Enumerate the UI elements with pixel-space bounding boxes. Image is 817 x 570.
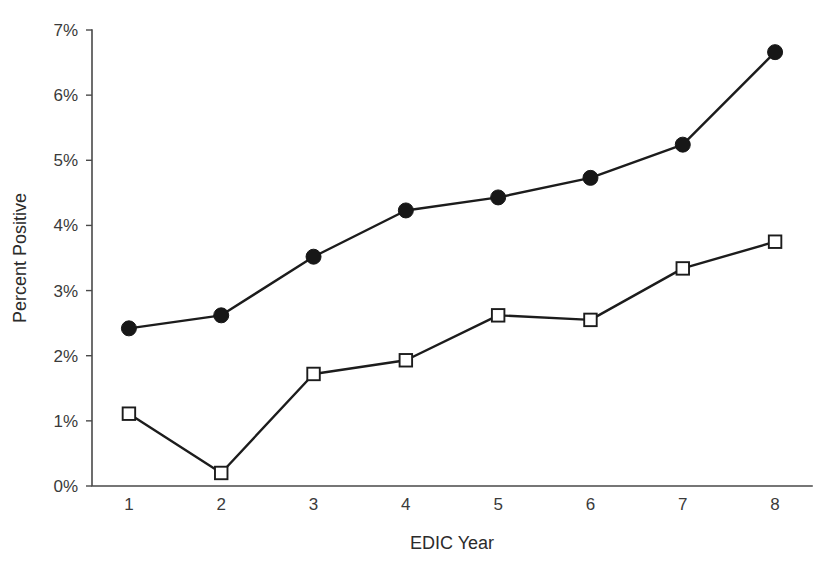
chart-background [0,0,817,570]
x-tick-label: 2 [216,495,225,514]
y-tick-label: 4% [53,216,78,235]
data-point-marker [121,321,136,336]
y-tick-label: 2% [53,347,78,366]
data-point-marker [492,309,505,322]
x-tick-label: 8 [770,495,779,514]
data-point-marker [215,467,228,480]
y-axis-title: Percent Positive [10,193,30,323]
data-point-marker [491,190,506,205]
x-tick-label: 7 [678,495,687,514]
data-point-marker [400,354,413,367]
line-chart-canvas: 0%1%2%3%4%5%6%7% 12345678 EDIC Year Perc… [0,0,817,570]
x-tick-label: 6 [586,495,595,514]
data-point-marker [583,170,598,185]
data-point-marker [769,235,782,248]
data-point-marker [307,368,320,381]
y-tick-label: 6% [53,86,78,105]
x-tick-label: 5 [493,495,502,514]
data-point-marker [768,45,783,60]
chart-figure: 0%1%2%3%4%5%6%7% 12345678 EDIC Year Perc… [0,0,817,570]
data-point-marker [584,314,597,327]
y-tick-label: 0% [53,477,78,496]
x-tick-label: 3 [309,495,318,514]
x-tick-label: 4 [401,495,410,514]
y-tick-label: 3% [53,282,78,301]
data-point-marker [214,308,229,323]
data-point-marker [123,407,136,420]
data-point-marker [306,249,321,264]
data-point-marker [677,262,690,275]
x-axis-title: EDIC Year [410,533,494,553]
x-tick-label: 1 [124,495,133,514]
y-tick-label: 1% [53,412,78,431]
y-tick-label: 7% [53,21,78,40]
y-tick-label: 5% [53,151,78,170]
data-point-marker [675,137,690,152]
data-point-marker [398,203,413,218]
